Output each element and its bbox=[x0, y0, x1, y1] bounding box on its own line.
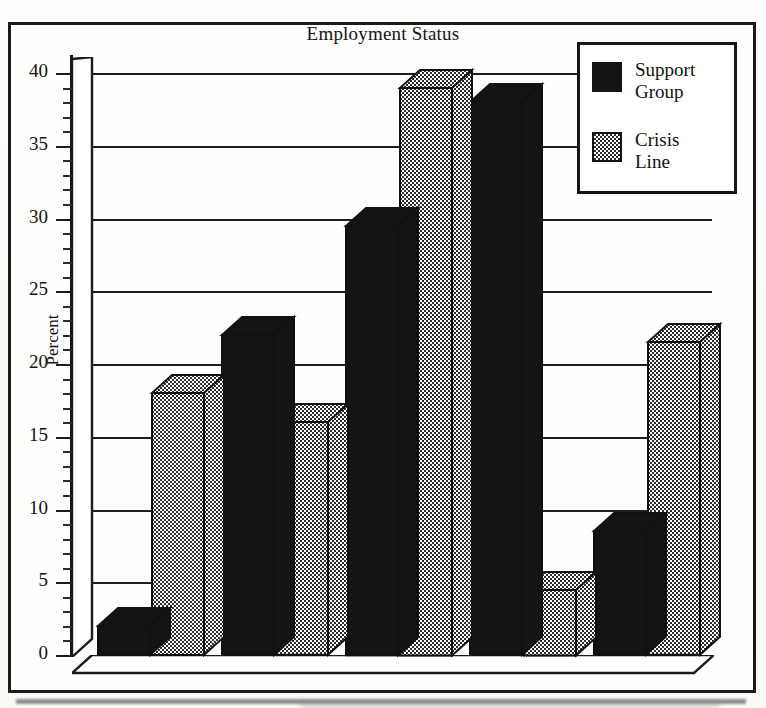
bar-support-group-4 bbox=[594, 513, 666, 655]
y-axis-minor-tick bbox=[63, 553, 72, 555]
y-axis-minor-tick bbox=[63, 408, 72, 410]
bar-support-group-1 bbox=[222, 317, 294, 655]
y-axis-minor-tick bbox=[63, 102, 72, 104]
legend-label-line2: Line bbox=[635, 151, 670, 172]
y-axis-major-tick bbox=[56, 73, 72, 75]
y-axis-minor-tick bbox=[63, 626, 72, 628]
y-axis-minor-tick bbox=[63, 131, 72, 133]
y-axis-minor-tick bbox=[63, 335, 72, 337]
y-axis-minor-tick bbox=[63, 277, 72, 279]
y-axis-tick-label: 15 bbox=[8, 424, 48, 446]
legend-label-crisis-line: Crisis Line bbox=[635, 129, 679, 173]
legend-label-support-group: Support Group bbox=[635, 59, 695, 103]
y-axis-major-tick bbox=[56, 291, 72, 293]
y-axis-minor-tick bbox=[63, 379, 72, 381]
bar-support-group-2 bbox=[346, 208, 418, 655]
y-axis-tick-label: 10 bbox=[8, 497, 48, 519]
legend-label-line1: Crisis bbox=[635, 129, 679, 150]
y-axis-major-tick bbox=[56, 510, 72, 512]
y-axis-tick-label: 40 bbox=[8, 60, 48, 82]
y-axis-major-tick bbox=[56, 655, 72, 657]
y-axis-minor-tick bbox=[63, 262, 72, 264]
y-axis-minor-tick bbox=[63, 175, 72, 177]
legend-swatch-crisis-line bbox=[592, 132, 622, 162]
plot-floor bbox=[72, 655, 712, 673]
y-axis-minor-tick bbox=[63, 88, 72, 90]
legend-swatch-support-group bbox=[592, 62, 622, 92]
y-axis-minor-tick bbox=[63, 640, 72, 642]
legend-label-line2: Group bbox=[635, 81, 684, 102]
y-axis-minor-tick bbox=[63, 466, 72, 468]
y-axis-minor-tick bbox=[63, 204, 72, 206]
legend-entry-support-group: Support Group bbox=[592, 59, 695, 103]
y-axis-major-tick bbox=[56, 364, 72, 366]
bar-support-group-3 bbox=[470, 84, 542, 655]
y-axis-minor-tick bbox=[63, 524, 72, 526]
bar-support-group-0 bbox=[98, 608, 170, 655]
y-axis-tick-label: 25 bbox=[8, 278, 48, 300]
chart-page: Employment Status Percent UnemployedFull… bbox=[0, 0, 766, 708]
chart-legend: Support Group Crisis Line bbox=[577, 42, 737, 194]
y-axis-minor-tick bbox=[63, 495, 72, 497]
legend-entry-crisis-line: Crisis Line bbox=[592, 129, 679, 173]
y-axis-minor-tick bbox=[63, 320, 72, 322]
y-axis-tick-label: 5 bbox=[8, 569, 48, 591]
y-axis-minor-tick bbox=[63, 306, 72, 308]
legend-label-line1: Support bbox=[635, 59, 695, 80]
y-axis-minor-tick bbox=[63, 539, 72, 541]
y-axis-minor-tick bbox=[63, 422, 72, 424]
plot-left-wall bbox=[72, 57, 92, 655]
y-axis-minor-tick bbox=[63, 189, 72, 191]
y-axis-minor-tick bbox=[63, 480, 72, 482]
y-axis-minor-tick bbox=[63, 117, 72, 119]
y-axis-tick-label: 35 bbox=[8, 133, 48, 155]
y-axis-minor-tick bbox=[63, 568, 72, 570]
y-axis-major-tick bbox=[56, 437, 72, 439]
y-axis-major-tick bbox=[56, 219, 72, 221]
y-axis-tick-label: 20 bbox=[8, 351, 48, 373]
y-axis-minor-tick bbox=[63, 393, 72, 395]
y-axis-tick-label: 30 bbox=[8, 206, 48, 228]
y-axis-minor-tick bbox=[63, 248, 72, 250]
y-axis-minor-tick bbox=[63, 349, 72, 351]
y-axis-minor-tick bbox=[63, 611, 72, 613]
y-axis-minor-tick bbox=[63, 160, 72, 162]
y-axis-major-tick bbox=[56, 146, 72, 148]
y-axis-minor-tick bbox=[63, 233, 72, 235]
scan-artifact-smudge bbox=[300, 700, 720, 708]
y-axis-minor-tick bbox=[63, 451, 72, 453]
y-axis-tick-label: 0 bbox=[8, 642, 48, 664]
y-axis-major-tick bbox=[56, 582, 72, 584]
y-axis-minor-tick bbox=[63, 597, 72, 599]
